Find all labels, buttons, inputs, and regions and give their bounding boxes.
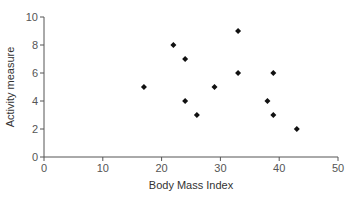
y-tick-label: 6 [32,67,38,79]
x-tick-label: 10 [97,162,109,174]
y-tick-label: 0 [32,151,38,163]
scatter-chart: 0246810 01020304050 Body Mass Index Acti… [0,0,357,197]
y-tick-label: 8 [32,39,38,51]
data-point [141,84,147,90]
x-axis: 01020304050 [41,157,344,174]
data-points [141,28,300,132]
x-tick-label: 50 [332,162,344,174]
data-point [270,112,276,118]
x-tick-label: 20 [155,162,167,174]
y-axis: 0246810 [26,11,44,163]
y-axis-label: Activity measure [4,47,16,128]
data-point [294,126,300,132]
data-point [194,112,200,118]
x-tick-label: 0 [41,162,47,174]
x-tick-label: 40 [273,162,285,174]
x-tick-label: 30 [214,162,226,174]
y-tick-label: 10 [26,11,38,23]
y-tick-label: 2 [32,123,38,135]
data-point [235,28,241,34]
data-point [264,98,270,104]
data-point [235,70,241,76]
data-point [182,56,188,62]
data-point [212,84,218,90]
x-axis-label: Body Mass Index [149,179,234,191]
data-point [170,42,176,48]
data-point [182,98,188,104]
y-tick-label: 4 [32,95,38,107]
data-point [270,70,276,76]
